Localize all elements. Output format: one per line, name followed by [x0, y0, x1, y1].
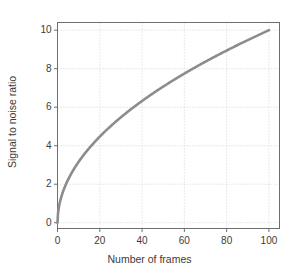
gridlines — [58, 23, 280, 229]
tick-marks — [54, 30, 269, 232]
y-tick-label: 4 — [46, 141, 52, 151]
y-tick-label: 10 — [40, 25, 51, 35]
x-tick-label: 100 — [261, 236, 278, 246]
plot-frame — [58, 23, 280, 229]
x-tick-label: 80 — [221, 236, 232, 246]
y-tick-label: 2 — [46, 179, 52, 189]
x-tick-label: 0 — [55, 236, 61, 246]
y-axis-label: Signal to noise ratio — [4, 0, 20, 243]
x-axis-label: Number of frames — [0, 253, 299, 265]
y-tick-label: 6 — [46, 102, 52, 112]
x-tick-label: 60 — [179, 236, 190, 246]
y-axis-label-text: Signal to noise ratio — [6, 75, 18, 167]
chart-figure: 0246810 020406080100 Number of frames Si… — [0, 0, 299, 275]
x-axis-label-text: Number of frames — [107, 253, 191, 265]
x-tick-label: 20 — [94, 236, 105, 246]
x-tick-label: 40 — [137, 236, 148, 246]
y-tick-label: 0 — [46, 218, 52, 228]
data-series-line — [58, 30, 269, 223]
y-tick-label: 8 — [46, 64, 52, 74]
plot-canvas — [0, 0, 299, 275]
